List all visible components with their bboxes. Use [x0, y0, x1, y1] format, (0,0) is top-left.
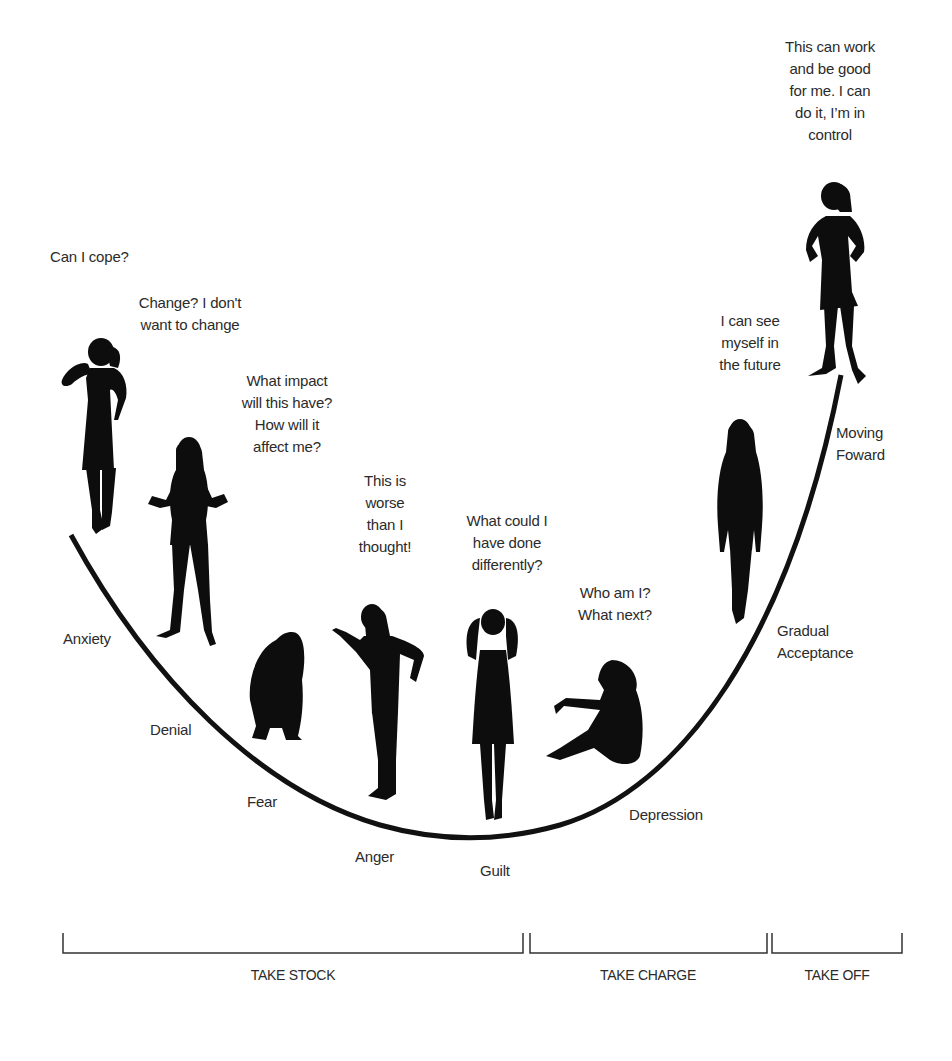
- thought-denial: Change? I don't want to change: [120, 292, 260, 336]
- bracket-take-charge: [530, 933, 767, 953]
- phase-brackets: [63, 933, 902, 953]
- phase-label-take-off: TAKE OFF: [777, 967, 897, 983]
- acceptance-figure-icon: [717, 419, 762, 624]
- anger-figure-icon: [332, 604, 424, 800]
- thought-guilt: What could I have done differently?: [442, 510, 572, 576]
- stage-label-guilt: Guilt: [480, 860, 510, 882]
- anxiety-figure-icon: [62, 338, 127, 534]
- thought-anxiety: Can I cope?: [50, 246, 170, 268]
- phase-label-take-charge: TAKE CHARGE: [568, 967, 728, 983]
- thought-depression: Who am I? What next?: [560, 582, 670, 626]
- change-curve-diagram: Can I cope? Change? I don't want to chan…: [0, 0, 952, 1061]
- stage-label-anger: Anger: [355, 846, 394, 868]
- stage-label-moving-forward: Moving Foward: [836, 422, 885, 466]
- stage-label-denial: Denial: [150, 719, 191, 741]
- stage-label-acceptance: Gradual Acceptance: [777, 620, 853, 664]
- bracket-take-stock: [63, 933, 523, 953]
- stage-label-anxiety: Anxiety: [63, 628, 111, 650]
- fear-figure-icon: [250, 632, 305, 740]
- stage-label-depression: Depression: [629, 804, 703, 826]
- thought-anger: This is worse than I thought!: [335, 470, 435, 558]
- thought-fear: What impact will this have? How will it …: [222, 370, 352, 458]
- thought-moving-forward: This can work and be good for me. I can …: [770, 36, 890, 146]
- stage-label-fear: Fear: [247, 791, 277, 813]
- bracket-take-off: [772, 933, 902, 953]
- depression-figure-icon: [546, 660, 643, 764]
- moving-forward-figure-icon: [806, 182, 866, 384]
- thought-acceptance: I can see myself in the future: [690, 310, 810, 376]
- guilt-figure-icon: [467, 609, 518, 820]
- denial-figure-icon: [148, 437, 228, 646]
- phase-label-take-stock: TAKE STOCK: [193, 967, 393, 983]
